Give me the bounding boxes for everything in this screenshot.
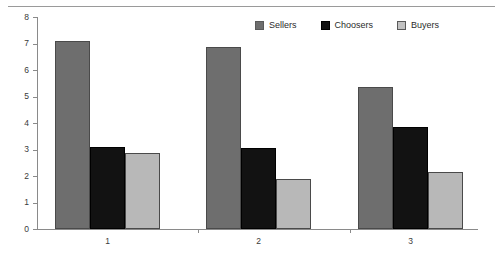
y-tick-mark [33,203,37,204]
y-tick-mark [33,123,37,124]
y-axis-line [37,17,38,230]
y-tick-mark [33,229,37,230]
legend-item-choosers[interactable]: Choosers [321,20,374,30]
x-tick-label: 3 [391,236,431,246]
y-tick-label: 5 [9,92,29,101]
bar-sellers-1 [55,41,90,229]
legend-item-label: Choosers [335,20,374,30]
y-tick-label: 6 [9,66,29,75]
x-tick-mark [350,229,351,233]
sellers-swatch-icon [255,21,264,30]
y-tick-mark [33,44,37,45]
bar-buyers-2 [276,179,311,229]
y-tick-mark [33,176,37,177]
bar-buyers-1 [125,153,160,229]
bar-choosers-1 [90,147,125,229]
y-tick-mark [33,150,37,151]
legend-item-sellers[interactable]: Sellers [255,20,297,30]
y-tick-label: 1 [9,198,29,207]
buyers-swatch-icon [397,21,406,30]
bar-sellers-3 [358,87,393,229]
bar-choosers-2 [241,148,276,229]
y-tick-label: 4 [9,119,29,128]
y-tick-label: 0 [9,225,29,234]
y-tick-mark [33,97,37,98]
legend-item-buyers[interactable]: Buyers [397,20,439,30]
x-tick-label: 1 [88,236,128,246]
bar-buyers-3 [428,172,463,229]
bar-choosers-3 [393,127,428,229]
y-tick-mark [33,70,37,71]
bar-sellers-2 [206,47,241,229]
y-tick-mark [33,17,37,18]
legend-item-label: Buyers [411,20,439,30]
y-tick-label: 7 [9,39,29,48]
y-tick-label: 8 [9,13,29,22]
x-tick-label: 2 [239,236,279,246]
chart-legend: SellersChoosersBuyers [255,20,439,30]
bar-chart: 876543210 123 SellersChoosersBuyers [0,0,501,259]
x-axis-line [37,229,478,230]
legend-item-label: Sellers [269,20,297,30]
choosers-swatch-icon [321,21,330,30]
y-tick-label: 3 [9,145,29,154]
y-tick-label: 2 [9,172,29,181]
x-tick-mark [198,229,199,233]
